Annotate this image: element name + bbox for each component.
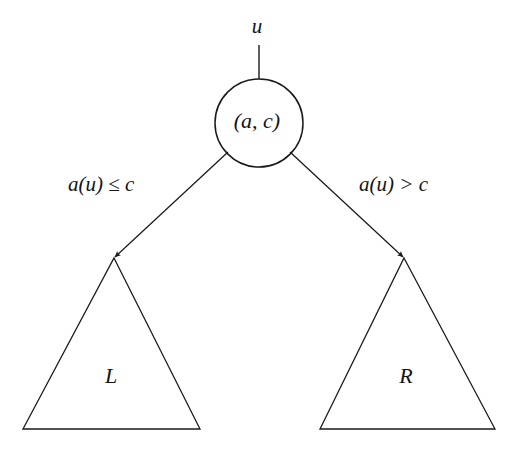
diagram-canvas: u (a, c) a(u) ≤ c a(u) > c L R — [0, 0, 514, 453]
incoming-edge-label: u — [0, 16, 514, 37]
left-subtree-triangle — [23, 258, 200, 429]
root-node-label: (a, c) — [0, 110, 514, 132]
diagram-vector-layer — [0, 0, 514, 453]
right-subtree-triangle — [320, 258, 495, 429]
right-branch-label: a(u) > c — [359, 174, 428, 195]
left-subtree-label: L — [81, 365, 141, 387]
left-branch-label: a(u) ≤ c — [68, 174, 134, 195]
right-subtree-label: R — [376, 365, 436, 387]
left-branch-edge — [115, 152, 228, 257]
right-branch-edge — [290, 152, 403, 257]
